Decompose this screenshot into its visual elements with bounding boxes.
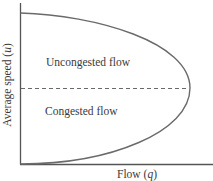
x-axis-label: Flow (q)	[117, 168, 157, 181]
uncongested-flow-label: Uncongested flow	[46, 56, 131, 69]
speed-flow-diagram: Uncongested flow Congested flow Flow (q)…	[0, 0, 213, 181]
x-axis-label-text: Flow	[117, 168, 144, 180]
y-axis-label-paren-close: )	[1, 43, 14, 47]
congested-flow-label: Congested flow	[45, 105, 118, 118]
y-axis-label-text: Average speed	[1, 57, 14, 127]
y-axis-label: Average speed (u)	[1, 43, 14, 127]
x-axis-label-paren-close: )	[153, 168, 157, 181]
